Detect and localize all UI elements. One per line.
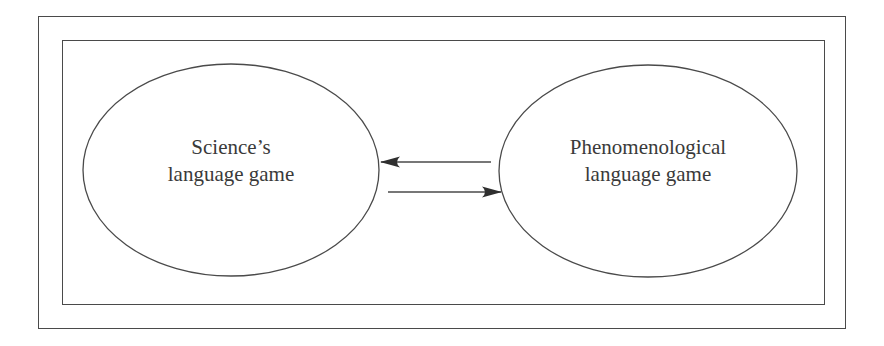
science-label-line-2: language game (131, 161, 331, 188)
phenomenological-label-line-1: Phenomenological (548, 134, 748, 161)
phenomenological-label-line-2: language game (548, 161, 748, 188)
science-node-label: Science’s language game (131, 134, 331, 188)
science-label-line-1: Science’s (131, 134, 331, 161)
phenomenological-node-label: Phenomenological language game (548, 134, 748, 188)
language-games-diagram: Science’s language game Phenomenological… (0, 0, 884, 346)
